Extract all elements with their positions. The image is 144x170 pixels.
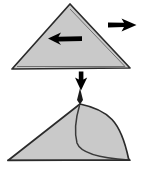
diagram-canvas xyxy=(0,0,144,170)
origami-fold-diagram: Triangle before fold with fold-direction… xyxy=(0,0,144,170)
